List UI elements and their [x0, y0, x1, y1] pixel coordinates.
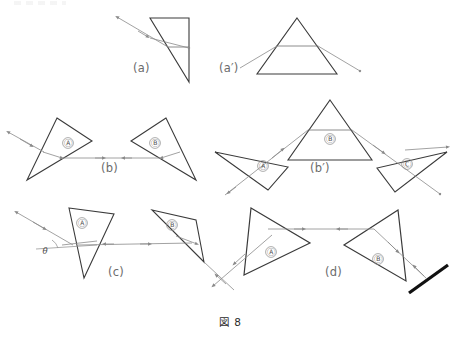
- figure-canvas: Ⓐ Ⓑ Ⓐ Ⓑ Ⓒ Ⓐ Ⓑ: [0, 0, 461, 345]
- prism-C: [377, 152, 447, 192]
- mirror: [409, 265, 448, 293]
- panel-a: [117, 17, 189, 82]
- panel-c: [16, 208, 234, 290]
- prism-label-text: Ⓑ: [168, 220, 177, 230]
- prism-label-text: Ⓑ: [374, 254, 383, 264]
- prism-B: [131, 118, 196, 180]
- exit-ray-arrow: [373, 145, 384, 153]
- panel-label-a-prime: (a′): [219, 61, 238, 75]
- refracted-ray: [150, 38, 189, 48]
- prism-label-text: Ⓑ: [151, 138, 160, 148]
- incident-ray: [117, 17, 168, 47]
- exit-ray: [318, 46, 360, 71]
- prism-label-b-B: Ⓑ: [150, 138, 161, 149]
- prism-label-text: Ⓐ: [64, 138, 73, 148]
- incident-ray-left: [8, 132, 44, 152]
- mirror-ray-arrow-down: [388, 242, 398, 252]
- incident-ray-arrow: [33, 222, 45, 229]
- exit-ray: [352, 130, 440, 194]
- prism-A: [27, 118, 92, 180]
- prism-B: [344, 210, 406, 281]
- panel-label-a: (a): [133, 61, 150, 75]
- panel-b-prime: [215, 100, 448, 195]
- prism-label-b-A: Ⓐ: [63, 138, 74, 149]
- prism-C-exit-ray: [405, 147, 448, 150]
- theta-angle-label: θ: [42, 246, 47, 256]
- incident-ray-arrow-upper: [272, 149, 283, 158]
- prism-label-text: Ⓐ: [78, 218, 87, 228]
- prism-label-text: Ⓒ: [403, 159, 412, 169]
- panel-label-d: (d): [325, 265, 342, 279]
- panel-label-b: (b): [101, 161, 118, 175]
- figure-container: Ⓐ Ⓑ Ⓐ Ⓑ Ⓒ Ⓐ Ⓑ: [0, 0, 461, 345]
- panel-a-prime: [240, 18, 360, 74]
- prism-label-text: Ⓐ: [267, 247, 276, 257]
- figure-caption: 図 8: [0, 314, 461, 329]
- prism-label-d-A: Ⓐ: [266, 247, 277, 258]
- prism-id-labels: Ⓐ Ⓑ Ⓐ Ⓑ Ⓒ Ⓐ Ⓑ: [63, 134, 413, 265]
- prism-label-bprime-C: Ⓒ: [402, 159, 413, 170]
- shared-ray: [78, 243, 192, 245]
- prism-label-text: Ⓑ: [326, 134, 335, 144]
- angle-arc: [52, 240, 58, 248]
- prism-label-c-B: Ⓑ: [167, 220, 178, 231]
- mirror-ray-arrow-up: [414, 266, 424, 276]
- prism-B-chord: [161, 152, 180, 158]
- exit-ray: [204, 262, 234, 290]
- incident-ray: [240, 46, 277, 68]
- panel-label-c: (c): [108, 265, 124, 279]
- prism-label-bprime-A: Ⓐ: [258, 161, 269, 172]
- incident-ray-arrowhead: [20, 139, 32, 146]
- prism-label-c-A: Ⓐ: [77, 218, 88, 229]
- exit-ray-left-arrow: [234, 254, 245, 264]
- exit-ray-left: [213, 235, 272, 286]
- panel-d: [213, 208, 448, 293]
- prism-A: [215, 152, 288, 190]
- prism-right-triangle: [150, 18, 189, 82]
- panel-label-b-prime: (b′): [310, 161, 330, 175]
- prism-B: [152, 210, 204, 262]
- prism-label-bprime-B: Ⓑ: [325, 134, 336, 145]
- prism-A: [244, 208, 310, 275]
- incident-ray-arrow-lower: [228, 187, 236, 193]
- prism-A-chord: [43, 152, 62, 158]
- prism-label-text: Ⓐ: [259, 161, 268, 171]
- prism-label-d-B: Ⓑ: [373, 254, 384, 265]
